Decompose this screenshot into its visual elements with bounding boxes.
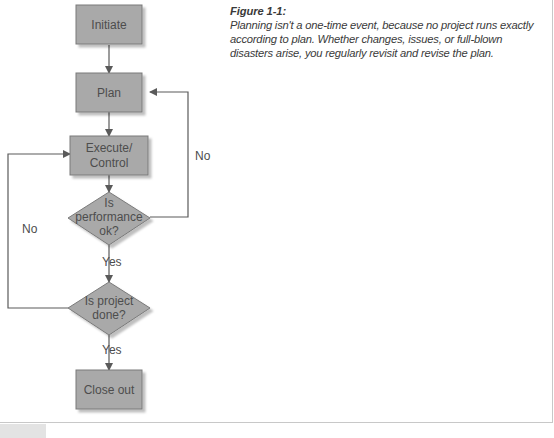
node-done-label-line1: Is project xyxy=(85,294,134,308)
node-plan: Plan xyxy=(76,73,142,112)
node-initiate-label: Initiate xyxy=(91,18,127,32)
node-execute-label-line1: Execute/ xyxy=(86,141,133,155)
edge-performance-to-plan xyxy=(150,92,188,217)
flowchart: Initiate Plan Execute/ Control Is perfor… xyxy=(0,0,554,424)
node-execute-label-line2: Control xyxy=(90,156,129,170)
edge-label-performance-yes: Yes xyxy=(102,255,122,269)
figure-caption-text: Planning isn't a one-time event, because… xyxy=(230,18,546,60)
edge-done-to-execute xyxy=(8,154,70,308)
edge-label-performance-no: No xyxy=(195,149,211,163)
page-margin-strip xyxy=(0,424,46,438)
node-performance-label-line3: ok? xyxy=(99,224,119,238)
node-initiate: Initiate xyxy=(76,5,142,44)
edge-label-done-no: No xyxy=(22,222,38,236)
node-performance-label-line2: performance xyxy=(75,210,143,224)
node-close-label: Close out xyxy=(84,383,135,397)
node-done-label-line2: done? xyxy=(92,308,126,322)
node-done: Is project done? xyxy=(68,282,150,335)
node-plan-label: Plan xyxy=(97,86,121,100)
node-execute: Execute/ Control xyxy=(70,136,148,175)
node-close: Close out xyxy=(76,370,142,409)
node-performance: Is performance ok? xyxy=(68,192,150,245)
node-performance-label-line1: Is xyxy=(104,196,113,210)
figure-box: Initiate Plan Execute/ Control Is perfor… xyxy=(0,0,553,423)
edge-label-done-yes: Yes xyxy=(102,343,122,357)
figure-caption: Figure 1-1: Planning isn't a one-time ev… xyxy=(230,4,546,60)
figure-title: Figure 1-1: xyxy=(230,4,546,18)
